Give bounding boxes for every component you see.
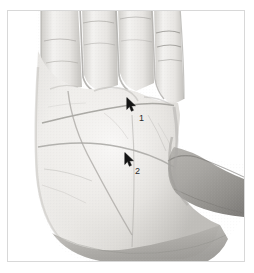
photo-frame: 1 2 — [7, 10, 245, 262]
palm-illustration — [8, 11, 244, 261]
annotation-label-2: 2 — [135, 167, 140, 176]
palm-photograph: 1 2 — [8, 11, 244, 261]
annotation-label-1: 1 — [139, 114, 144, 123]
screenshot-root: 1 2 — [0, 0, 254, 273]
